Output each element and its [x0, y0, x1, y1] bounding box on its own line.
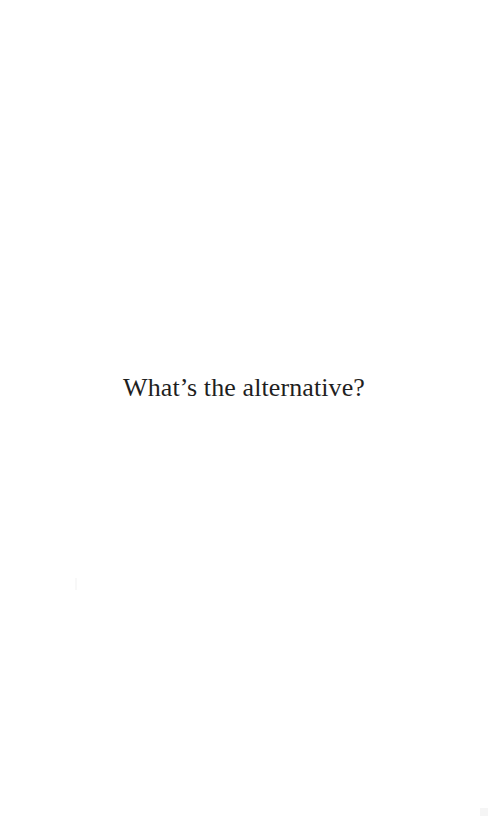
- page-text: What’s the alternative?: [0, 368, 488, 408]
- scan-artifact: [480, 808, 488, 816]
- document-page: What’s the alternative?: [0, 0, 488, 816]
- scan-artifact: [75, 578, 77, 590]
